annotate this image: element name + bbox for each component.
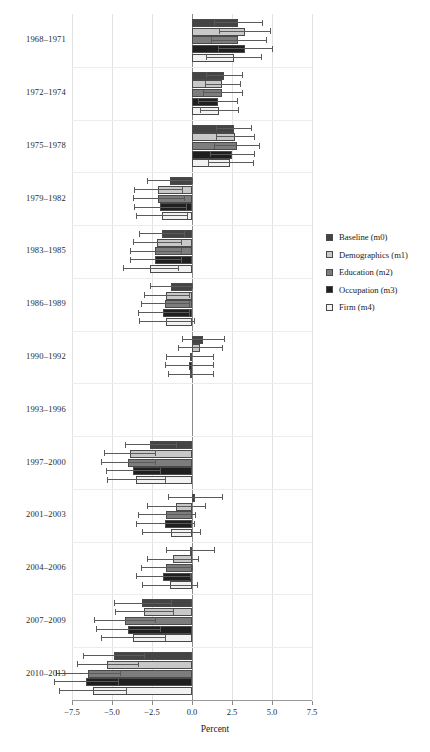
- error-bar-cap: [181, 248, 182, 254]
- x-axis-tick-label: 7.5: [307, 707, 318, 717]
- y-axis-tick-label: 1997–2000: [0, 457, 66, 467]
- gridline-vertical: [312, 14, 313, 700]
- error-bar-cap: [266, 37, 267, 43]
- y-axis-tick-label: 2007–2009: [0, 615, 66, 625]
- error-bar: [150, 286, 192, 287]
- bar-row: [72, 177, 312, 185]
- bar-row: [72, 467, 312, 475]
- error-bar-cap: [216, 125, 217, 131]
- bar-row: [72, 511, 312, 519]
- bar-row: [72, 318, 312, 326]
- bar-row: [72, 687, 312, 695]
- y-axis-tick-label: 2001–2003: [0, 509, 66, 519]
- error-bar: [216, 136, 254, 137]
- error-bar-cap: [147, 503, 148, 509]
- error-bar-cap: [147, 178, 148, 184]
- x-axis-tick-label: −2.5: [144, 707, 159, 717]
- error-bar: [115, 611, 173, 612]
- y-axis-tick-label: 1968–1971: [0, 34, 66, 44]
- bar-row: [72, 529, 312, 537]
- error-bar-cap: [123, 265, 124, 271]
- error-bar: [114, 603, 172, 604]
- y-axis-tick-label: 1990–1992: [0, 351, 66, 361]
- error-bar: [166, 356, 212, 357]
- bar-row: [72, 212, 312, 220]
- error-bar-cap: [120, 670, 121, 676]
- legend-swatch-icon: [326, 234, 333, 241]
- bar-row: [72, 617, 312, 625]
- plot-area: [72, 14, 312, 700]
- category-group: [72, 436, 312, 489]
- y-axis-tick-label: 1975–1978: [0, 140, 66, 150]
- x-axis-tick: [312, 701, 313, 705]
- bar-row: [72, 89, 312, 97]
- error-bar-cap: [138, 310, 139, 316]
- bar-row: [72, 195, 312, 203]
- y-axis-tick-label: 1979–1982: [0, 193, 66, 203]
- bar-row: [72, 336, 312, 344]
- bar-row: [72, 230, 312, 238]
- error-bar: [168, 497, 222, 498]
- bar-row: [72, 265, 312, 273]
- x-axis-title: Percent: [0, 724, 430, 734]
- category-group: [72, 278, 312, 331]
- legend-label: Occupation (m3): [339, 285, 397, 295]
- error-bar-cap: [198, 556, 199, 562]
- bar-row: [72, 450, 312, 458]
- error-bar-cap: [186, 204, 187, 210]
- error-bar-cap: [133, 239, 134, 245]
- error-bar-cap: [259, 143, 260, 149]
- error-bar-cap: [192, 178, 193, 184]
- bar-row: [72, 573, 312, 581]
- x-axis-tick: [72, 701, 73, 705]
- error-bar: [219, 31, 270, 32]
- bar-row: [72, 256, 312, 264]
- bar-row: [72, 626, 312, 634]
- error-bar-cap: [144, 653, 145, 659]
- error-bar-cap: [195, 512, 196, 518]
- y-axis-tick-label: 1993–1996: [0, 404, 66, 414]
- error-bar: [165, 365, 213, 366]
- error-bar-cap: [101, 635, 102, 641]
- bar-row: [72, 494, 312, 502]
- error-bar: [139, 233, 184, 234]
- legend-swatch-icon: [326, 251, 333, 258]
- error-bar-cap: [219, 28, 220, 34]
- bar-row: [72, 599, 312, 607]
- bar-row: [72, 634, 312, 642]
- error-bar-cap: [150, 283, 151, 289]
- error-bar-cap: [200, 529, 201, 535]
- category-group: [72, 67, 312, 120]
- error-bar: [94, 620, 155, 621]
- error-bar: [106, 470, 160, 471]
- bar-row: [72, 309, 312, 317]
- error-bar-cap: [182, 336, 183, 342]
- error-bar: [59, 690, 126, 691]
- error-bar-cap: [262, 20, 263, 26]
- error-bar: [125, 444, 176, 445]
- legend-label: Firm (m4): [339, 302, 375, 312]
- legend-item: Education (m2): [326, 267, 408, 277]
- bar-row: [72, 45, 312, 53]
- error-bar-cap: [142, 582, 143, 588]
- error-bar: [139, 321, 193, 322]
- error-bar-cap: [147, 556, 148, 562]
- category-group: [72, 489, 312, 542]
- error-bar-cap: [192, 565, 193, 571]
- error-bar: [206, 75, 241, 76]
- bar-row: [72, 28, 312, 36]
- error-bar-cap: [114, 600, 115, 606]
- error-bar-cap: [178, 345, 179, 351]
- error-bar-cap: [138, 661, 139, 667]
- bar-row: [72, 186, 312, 194]
- error-bar-cap: [168, 371, 169, 377]
- error-bar-cap: [213, 362, 214, 368]
- bar-row: [72, 107, 312, 115]
- error-bar: [123, 268, 177, 269]
- error-bar-cap: [238, 107, 239, 113]
- error-bar-cap: [141, 565, 142, 571]
- bar-row: [72, 19, 312, 27]
- category-group: [72, 383, 312, 436]
- bar-row: [72, 564, 312, 572]
- error-bar-cap: [160, 468, 161, 474]
